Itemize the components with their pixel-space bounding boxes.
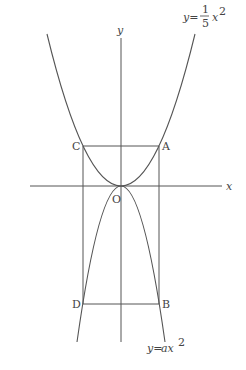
svg-text:1: 1: [202, 3, 209, 16]
svg-text:2: 2: [178, 336, 185, 349]
diagram-canvas: y x O C A D B y= 1 5 x 2 y= ax 2: [0, 0, 246, 370]
svg-text:2: 2: [219, 5, 226, 18]
point-label-C: C: [72, 140, 80, 153]
point-label-B: B: [162, 298, 170, 311]
svg-text:x: x: [212, 11, 219, 24]
svg-text:y=: y=: [182, 11, 198, 24]
origin-label: O: [112, 193, 121, 206]
point-label-A: A: [161, 140, 171, 153]
lower-parabola-equation: y= ax 2: [146, 336, 185, 355]
y-axis-label: y: [116, 24, 124, 37]
svg-text:y=: y=: [146, 342, 162, 355]
svg-text:5: 5: [202, 17, 209, 30]
point-label-D: D: [72, 298, 81, 311]
x-axis-label: x: [226, 180, 233, 193]
svg-text:ax: ax: [161, 342, 175, 355]
upper-parabola-equation: y= 1 5 x 2: [182, 3, 226, 30]
